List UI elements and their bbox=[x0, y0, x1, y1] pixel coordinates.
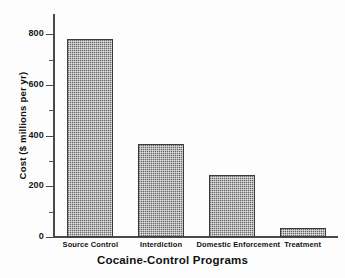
bar-chart-figure: 0200400600800 Source ControlInterdiction… bbox=[0, 0, 345, 278]
x-axis-title: Cocaine-Control Programs bbox=[0, 254, 345, 267]
bar-source-control bbox=[67, 39, 113, 237]
y-axis-title: Cost ($ millions per yr) bbox=[17, 36, 28, 216]
bar-treatment bbox=[280, 228, 326, 237]
x-category-label: Interdiction bbox=[126, 240, 197, 249]
bars-group bbox=[0, 0, 345, 278]
bar-interdiction bbox=[138, 144, 184, 237]
x-category-label: Treatment bbox=[267, 240, 338, 249]
x-category-label: Source Control bbox=[55, 240, 126, 249]
x-category-label: Domestic Enforcement bbox=[197, 240, 268, 249]
bar-domestic-enforcement bbox=[209, 175, 255, 237]
